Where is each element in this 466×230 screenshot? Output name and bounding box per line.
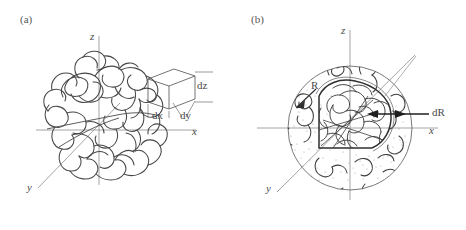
dy-label: dy [180, 110, 191, 121]
volume-element-cube [148, 69, 195, 109]
panel-a-x-axis-label: x [192, 126, 197, 137]
shell-leader-line [385, 56, 416, 96]
peripheral-coil-squiggles [285, 61, 405, 204]
y-axis-line-a [38, 103, 120, 188]
panel-b: (b) z x y R dR [233, 0, 466, 230]
panel-a-y-axis-label: y [27, 182, 32, 193]
dz-label: dz [197, 80, 207, 91]
panel-a-graphic [0, 0, 233, 230]
dx-label: dx [152, 110, 163, 121]
panel-b-label: (b) [251, 14, 264, 25]
figure-container: (a) z x y dz dx dy [0, 0, 466, 230]
shell-thickness-arrow-group [367, 110, 429, 118]
shell-thickness-label: dR [432, 107, 445, 118]
radius-label: R [311, 80, 318, 91]
panel-b-z-axis-label: z [341, 25, 345, 36]
panel-a-label: (a) [20, 14, 32, 25]
axes-group-a [36, 36, 196, 188]
panel-b-y-axis-label: y [266, 183, 271, 194]
random-coil-a [44, 51, 167, 180]
dR-arrow-head-right [395, 110, 406, 118]
panel-b-x-axis-label: x [429, 125, 434, 136]
panel-a: (a) z x y dz dx dy [0, 0, 233, 230]
panel-a-z-axis-label: z [90, 31, 94, 42]
